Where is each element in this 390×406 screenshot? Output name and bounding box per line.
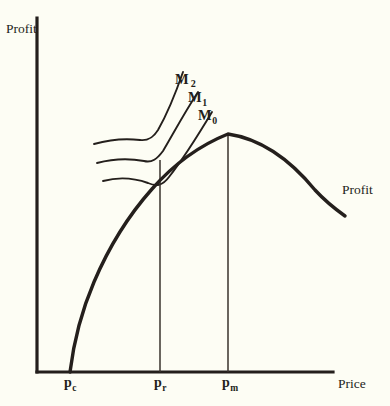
iso-curve-label-m1-subscript: 1 (202, 97, 207, 108)
x-tick-label-pr: pr (154, 376, 166, 390)
x-tick-label-pc-base: p (64, 375, 72, 390)
iso-curve-label-m2: M2 (175, 72, 194, 87)
x-tick-label-pm-subscript: m (230, 383, 238, 393)
iso-curve-label-m0-base: M (198, 107, 212, 123)
iso-curve-label-m0: M0 (198, 108, 217, 123)
iso-profit-curve-m1 (97, 92, 198, 163)
x-tick-label-pr-base: p (154, 375, 162, 390)
x-tick-label-pc-subscript: c (72, 383, 76, 393)
y-axis-label: Profit (6, 22, 37, 36)
x-tick-label-pc: pc (64, 376, 76, 390)
iso-curve-label-m2-subscript: 2 (191, 78, 196, 89)
iso-curve-label-m1: M1 (188, 90, 207, 105)
x-axis-label: Price (338, 377, 366, 391)
x-tick-label-pm: pm (222, 376, 238, 390)
profit-curve (70, 134, 345, 372)
iso-profit-curve-m0 (103, 112, 212, 185)
iso-curve-label-m2-base: M (175, 71, 189, 87)
iso-profit-curve-m2 (94, 72, 183, 144)
diagram-canvas (0, 0, 390, 406)
profit-curve-label: Profit (342, 183, 373, 197)
iso-curve-label-m0-subscript: 0 (212, 115, 217, 126)
x-tick-label-pr-subscript: r (162, 383, 166, 393)
profit-price-diagram: Profit Price Profit M2 M1 M0 pc pr pm (0, 0, 390, 406)
iso-curve-label-m1-base: M (188, 89, 202, 105)
x-tick-label-pm-base: p (222, 375, 230, 390)
